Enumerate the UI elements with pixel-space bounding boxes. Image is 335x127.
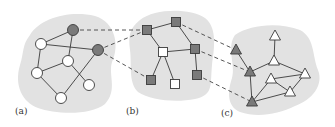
square-node-empty — [159, 48, 168, 57]
square-node-filled — [191, 45, 200, 54]
square-node-empty — [171, 80, 180, 89]
circle-node-empty — [56, 93, 67, 104]
circle-node-empty — [63, 56, 74, 67]
multilevel-graph-diagram: (a)(b)(c) — [0, 0, 335, 127]
square-node-filled — [172, 18, 181, 27]
circle-node-filled — [93, 45, 104, 56]
square-node-filled — [147, 76, 156, 85]
panel-c-label: (c) — [221, 108, 233, 118]
circle-node-empty — [32, 68, 43, 79]
square-node-filled — [193, 71, 202, 80]
circle-node-filled — [68, 25, 79, 36]
circle-node-empty — [84, 80, 95, 91]
circle-node-empty — [36, 39, 47, 50]
square-node-filled — [143, 26, 152, 35]
panel-a-label: (a) — [15, 106, 27, 116]
panel-b-label: (b) — [126, 106, 139, 116]
